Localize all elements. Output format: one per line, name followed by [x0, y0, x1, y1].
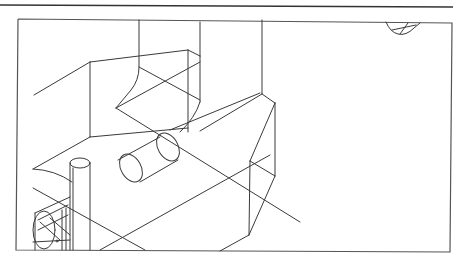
- wireframe-drawing: [0, 0, 463, 266]
- cut-cylinder-top-right: [386, 22, 420, 34]
- viewport-frame: [16, 19, 452, 252]
- curved-duct: [90, 20, 200, 132]
- vertical-pipe: [70, 158, 90, 250]
- top-rule: [0, 5, 453, 7]
- horizontal-cylinder: [115, 129, 184, 186]
- drawing-viewport[interactable]: [0, 0, 463, 266]
- corner-fitting: [200, 20, 275, 251]
